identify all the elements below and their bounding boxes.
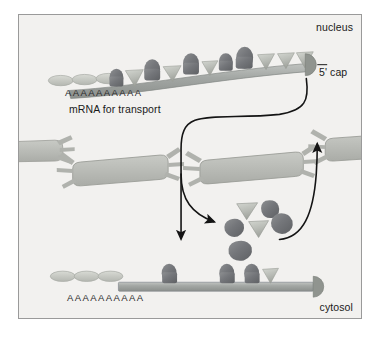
diagram-canvas <box>19 15 361 318</box>
protein-cone <box>263 268 279 283</box>
label-nucleus: nucleus <box>316 21 353 33</box>
mrna-export-diagram: nucleus cytosol 5' cap mRNA for transpor… <box>0 0 379 337</box>
bottom-mrna-strand <box>118 282 313 291</box>
released-protein-cone <box>249 221 269 238</box>
diagram-panel: nucleus cytosol 5' cap mRNA for transpor… <box>18 14 362 319</box>
label-poly-a-tail-top: AAAAAAAAAA <box>65 87 142 98</box>
five-prime-cap-bottom <box>313 276 323 297</box>
bottom-mrna-proteins <box>162 264 279 283</box>
label-poly-a-tail-bottom: AAAAAAAAAA <box>67 292 144 303</box>
five-prime-cap-top <box>305 54 316 76</box>
nuclear-pores-group <box>19 129 361 189</box>
nuclear-pore-left-center <box>57 147 184 189</box>
label-cytosol: cytosol <box>320 301 353 313</box>
label-mrna-for-transport: mRNA for transport <box>69 103 161 115</box>
poly-a-ovals-bottom <box>50 271 123 281</box>
nuclear-pore-center <box>183 144 319 187</box>
released-protein-blob <box>228 241 252 261</box>
released-protein-blob <box>224 219 244 237</box>
released-protein-blob <box>271 213 293 234</box>
label-five-prime-cap: 5' cap <box>319 66 347 78</box>
released-protein-cone <box>237 203 258 220</box>
released-proteins-cluster <box>224 200 292 260</box>
